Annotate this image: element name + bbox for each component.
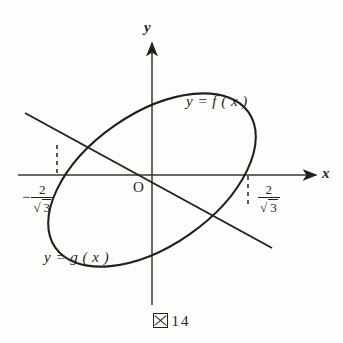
fraction-denominator: √3 bbox=[31, 199, 53, 214]
figure-caption: 14 bbox=[0, 313, 343, 330]
radical-sign: √ bbox=[33, 200, 40, 215]
figure-kanji-icon bbox=[153, 313, 168, 328]
y-axis-label: y bbox=[144, 20, 151, 35]
x-axis-label: x bbox=[322, 166, 330, 181]
curve-label-g: y = g ( x ) bbox=[44, 250, 109, 265]
tick-label-right: 2 √3 bbox=[258, 183, 280, 214]
fraction-numerator: 2 bbox=[264, 183, 275, 196]
origin-label: O bbox=[133, 180, 144, 195]
fraction-left: 2 √3 bbox=[31, 183, 53, 214]
tick-label-left: − 2 √3 bbox=[22, 183, 53, 214]
radical-sign: √ bbox=[260, 200, 267, 215]
radicand: 3 bbox=[42, 199, 52, 214]
figure-container: y x O y = f ( x ) y = g ( x ) − 2 √3 2 √… bbox=[0, 0, 343, 343]
plot-canvas bbox=[0, 0, 343, 343]
figure-number: 14 bbox=[172, 313, 191, 329]
fraction-right: 2 √3 bbox=[258, 183, 280, 214]
minus-sign: − bbox=[22, 190, 30, 207]
fraction-bar bbox=[31, 197, 53, 198]
radicand: 3 bbox=[268, 199, 278, 214]
fraction-bar bbox=[258, 197, 280, 198]
fraction-denominator: √3 bbox=[258, 199, 280, 214]
fraction-numerator: 2 bbox=[37, 183, 48, 196]
curve-label-f: y = f ( x ) bbox=[186, 94, 248, 109]
